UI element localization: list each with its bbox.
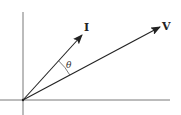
voltage-vector-v [23, 27, 160, 100]
vector-label-i: I [84, 21, 89, 34]
phasor-diagram: I V θ [0, 0, 181, 115]
vector-label-v: V [161, 20, 171, 33]
origin-point [22, 99, 24, 101]
current-vector-i [23, 35, 82, 100]
angle-label-theta: θ [66, 60, 72, 70]
